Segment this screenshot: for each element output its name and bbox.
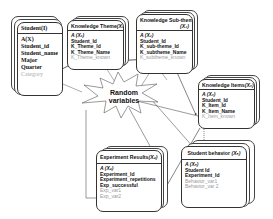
random-variables-label: Random variables [100, 89, 148, 105]
field: Major [21, 57, 59, 64]
random-field: Category [21, 71, 59, 78]
experiment-results-title: Experiment Results(X₄) [97, 151, 161, 164]
random-field: K_Theme_known [71, 55, 120, 61]
random-label-line1: Random [100, 89, 148, 97]
random-label-line2: variables [100, 97, 148, 105]
student-behavior-title: Student behavior (X₅) [182, 147, 246, 160]
knowledge-items-title: Knowledge Items(X₃) [199, 80, 254, 90]
random-field: K_subtheme_known [140, 55, 189, 61]
knowledge-theme-title: Knowledge Theme(X₁) [68, 21, 123, 31]
knowledge-subtheme-title: Knowledge Sub-theme(X₂) [137, 15, 192, 31]
field: Quarter [21, 64, 59, 71]
random-field: Behavior_var 2 [185, 184, 243, 190]
field: A(X) [21, 36, 59, 43]
student-title: Student(I) [18, 23, 62, 34]
random-field: K_Item_known [202, 114, 251, 120]
field: Student_name [21, 50, 59, 57]
field: Student_id [21, 43, 59, 50]
random-field: Exp_var2 [100, 194, 158, 200]
